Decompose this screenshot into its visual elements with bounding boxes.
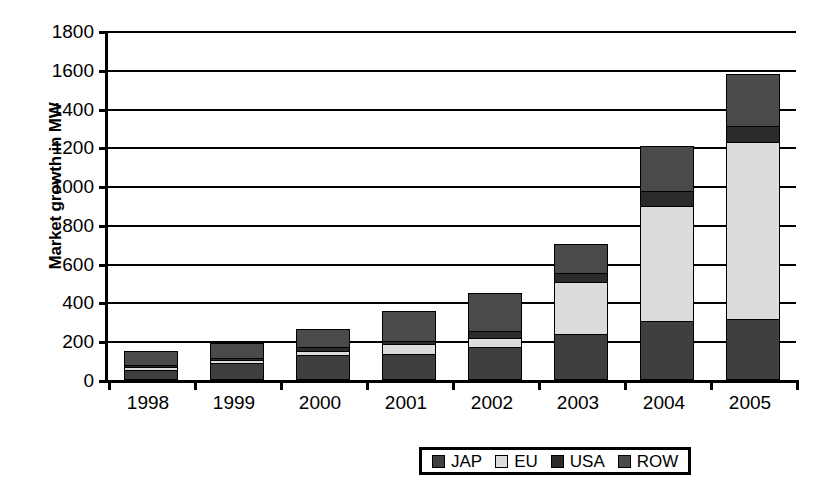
y-axis-tick-mark (99, 109, 108, 112)
bar-segment-2005-eu[interactable] (726, 142, 780, 320)
x-axis-tick-mark (710, 380, 713, 390)
x-axis-label-2005: 2005 (705, 392, 795, 414)
legend-label: JAP (451, 453, 482, 470)
legend-swatch-icon-usa (551, 455, 564, 468)
x-axis-tick-mark (194, 380, 197, 390)
stacked-bar-chart: Market growth in MW 02004006008001000120… (0, 0, 814, 489)
bar-segment-2004-eu[interactable] (640, 206, 694, 322)
legend-item-usa[interactable]: USA (551, 453, 605, 470)
bar-segment-2002-row[interactable] (468, 293, 522, 331)
x-axis-tick-mark (624, 380, 627, 390)
chart-legend: JAPEUUSAROW (419, 447, 691, 475)
y-axis-tick-mark (99, 264, 108, 267)
gridline (108, 109, 796, 111)
y-axis-tick-label: 1200 (52, 138, 94, 157)
y-axis-tick-mark (99, 302, 108, 305)
legend-label: USA (570, 453, 605, 470)
y-axis-tick-mark (99, 341, 108, 344)
x-axis-label-2002: 2002 (447, 392, 537, 414)
bar-segment-2003-jap[interactable] (554, 334, 608, 380)
x-axis-label-1999: 1999 (189, 392, 279, 414)
y-axis-tick-label: 600 (62, 254, 94, 273)
y-axis-tick-label: 1600 (52, 60, 94, 79)
x-axis-label-2004: 2004 (619, 392, 709, 414)
y-axis-tick-mark (99, 225, 108, 228)
bar-segment-2001-jap[interactable] (382, 353, 436, 380)
x-axis-tick-mark (366, 380, 369, 390)
bar-segment-2003-row[interactable] (554, 244, 608, 275)
bar-segment-2004-usa[interactable] (640, 190, 694, 207)
legend-item-eu[interactable]: EU (495, 453, 538, 470)
bar-segment-2004-jap[interactable] (640, 320, 694, 380)
x-axis-tick-mark (796, 380, 799, 390)
y-axis-tick-label: 0 (83, 371, 94, 390)
bar-segment-2005-jap[interactable] (726, 318, 780, 380)
y-axis-tick-mark (99, 70, 108, 73)
x-axis-label-2003: 2003 (533, 392, 623, 414)
y-axis-tick-label: 400 (62, 293, 94, 312)
x-axis-tick-mark (452, 380, 455, 390)
bar-segment-2002-jap[interactable] (468, 346, 522, 380)
bar-segment-2001-row[interactable] (382, 311, 436, 343)
gridline (108, 70, 796, 72)
x-axis-label-1998: 1998 (103, 392, 193, 414)
x-axis-tick-mark (280, 380, 283, 390)
y-axis-tick-mark (99, 380, 108, 383)
bar-segment-2000-jap[interactable] (296, 354, 350, 380)
y-axis-tick-label: 200 (62, 332, 94, 351)
y-axis-tick-mark (99, 147, 108, 150)
x-axis-label-2000: 2000 (275, 392, 365, 414)
bar-segment-2000-row[interactable] (296, 329, 350, 348)
y-axis-tick-mark (99, 31, 108, 34)
x-axis-label-2001: 2001 (361, 392, 451, 414)
y-axis-tick-label: 1400 (52, 99, 94, 118)
legend-item-row[interactable]: ROW (618, 453, 679, 470)
legend-item-jap[interactable]: JAP (432, 453, 482, 470)
bar-segment-1999-jap[interactable] (210, 362, 264, 380)
bar-segment-2005-row[interactable] (726, 74, 780, 127)
bar-segment-1999-row[interactable] (210, 343, 264, 359)
legend-swatch-icon-row (618, 455, 631, 468)
plot-area: 020040060080010001200140016001800 (105, 31, 796, 383)
y-axis-tick-label: 1800 (52, 22, 94, 41)
legend-label: ROW (637, 453, 679, 470)
bar-segment-2005-usa[interactable] (726, 125, 780, 143)
y-axis-tick-label: 1000 (52, 177, 94, 196)
x-axis-tick-mark (108, 380, 111, 390)
legend-label: EU (514, 453, 538, 470)
bar-segment-2003-eu[interactable] (554, 281, 608, 335)
y-axis-tick-label: 800 (62, 215, 94, 234)
bar-segment-2004-row[interactable] (640, 146, 694, 192)
legend-swatch-icon-eu (495, 455, 508, 468)
legend-swatch-icon-jap (432, 455, 445, 468)
bar-segment-2001-eu[interactable] (382, 344, 436, 355)
bar-segment-1998-row[interactable] (124, 351, 178, 366)
x-axis-tick-mark (538, 380, 541, 390)
y-axis-tick-mark (99, 186, 108, 189)
gridline (108, 31, 796, 33)
